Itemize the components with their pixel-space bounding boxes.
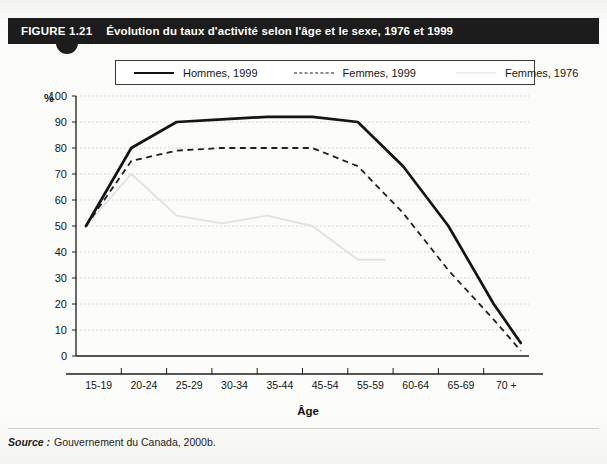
y-axis-tick-label: 30 xyxy=(55,272,67,284)
legend-swatch-solid-icon xyxy=(134,67,174,79)
y-axis-ticks-group: 0102030405060708090100 xyxy=(49,90,76,362)
figure-title: Évolution du taux d'activité selon l'âge… xyxy=(106,25,453,37)
x-axis-tick-label: 20-24 xyxy=(131,379,158,391)
x-axis-tick-label: 70 + xyxy=(496,379,517,391)
series-line-femmes-1999 xyxy=(86,148,521,351)
y-axis-tick-label: 50 xyxy=(55,220,67,232)
x-axis-tick-label: 65-69 xyxy=(448,379,475,391)
y-axis-tick-label: 40 xyxy=(55,246,67,258)
legend-swatch-dashed-icon xyxy=(294,67,334,79)
y-axis-tick-label: 70 xyxy=(55,168,67,180)
source-text: Gouvernement du Canada, 2000b. xyxy=(54,436,216,448)
x-axis-title: Âge xyxy=(297,405,319,417)
x-axis-tick-label: 35-44 xyxy=(266,379,293,391)
legend-item-femmes-1976: Femmes, 1976 xyxy=(456,61,578,84)
figure-body: Hommes, 1999 Femmes, 1999 Femmes, 1976 0… xyxy=(8,44,599,422)
line-chart-svg: 0102030405060708090100 15-1920-2425-2930… xyxy=(8,88,599,422)
x-axis-tick-label: 55-59 xyxy=(357,379,384,391)
legend-label-femmes-1999: Femmes, 1999 xyxy=(343,67,416,79)
series-line-femmes-1976 xyxy=(86,174,385,260)
y-axis-tick-label: 80 xyxy=(55,142,67,154)
y-axis-tick-label: 0 xyxy=(61,350,67,362)
x-axis-tick-label: 25-29 xyxy=(176,379,203,391)
y-axis-unit-label: % xyxy=(44,92,54,104)
source-note: Source :Gouvernement du Canada, 2000b. xyxy=(8,436,599,448)
figure-title-bar: FIGURE 1.21 Évolution du taux d'activité… xyxy=(8,18,599,44)
legend-label-hommes-1999: Hommes, 1999 xyxy=(183,67,258,79)
x-axis-tick-label: 30-34 xyxy=(221,379,248,391)
legend-item-femmes-1999: Femmes, 1999 xyxy=(294,61,416,84)
x-axis-ticks-group: 15-1920-2425-2930-3435-4445-5455-5960-64… xyxy=(66,368,543,391)
gridlines-group xyxy=(76,96,529,330)
legend-swatch-light-icon xyxy=(456,67,496,79)
figure-number: FIGURE 1.21 xyxy=(21,25,92,37)
series-line-hommes-1999 xyxy=(86,117,521,343)
legend-item-hommes-1999: Hommes, 1999 xyxy=(134,61,258,84)
y-axis-tick-label: 20 xyxy=(55,298,67,310)
x-axis-tick-label: 45-54 xyxy=(312,379,339,391)
x-axis-tick-label: 15-19 xyxy=(85,379,112,391)
y-axis-tick-label: 10 xyxy=(55,324,67,336)
source-label: Source : xyxy=(8,436,50,448)
legend-label-femmes-1976: Femmes, 1976 xyxy=(505,67,578,79)
source-divider xyxy=(8,428,599,429)
chart-plot-area: 0102030405060708090100 15-1920-2425-2930… xyxy=(8,88,599,422)
data-series-group xyxy=(86,117,521,351)
x-axis-tick-label: 60-64 xyxy=(402,379,429,391)
figure-container: FIGURE 1.21 Évolution du taux d'activité… xyxy=(0,0,607,464)
y-axis-tick-label: 90 xyxy=(55,116,67,128)
y-axis-tick-label: 60 xyxy=(55,194,67,206)
chart-legend: Hommes, 1999 Femmes, 1999 Femmes, 1976 xyxy=(115,60,535,85)
